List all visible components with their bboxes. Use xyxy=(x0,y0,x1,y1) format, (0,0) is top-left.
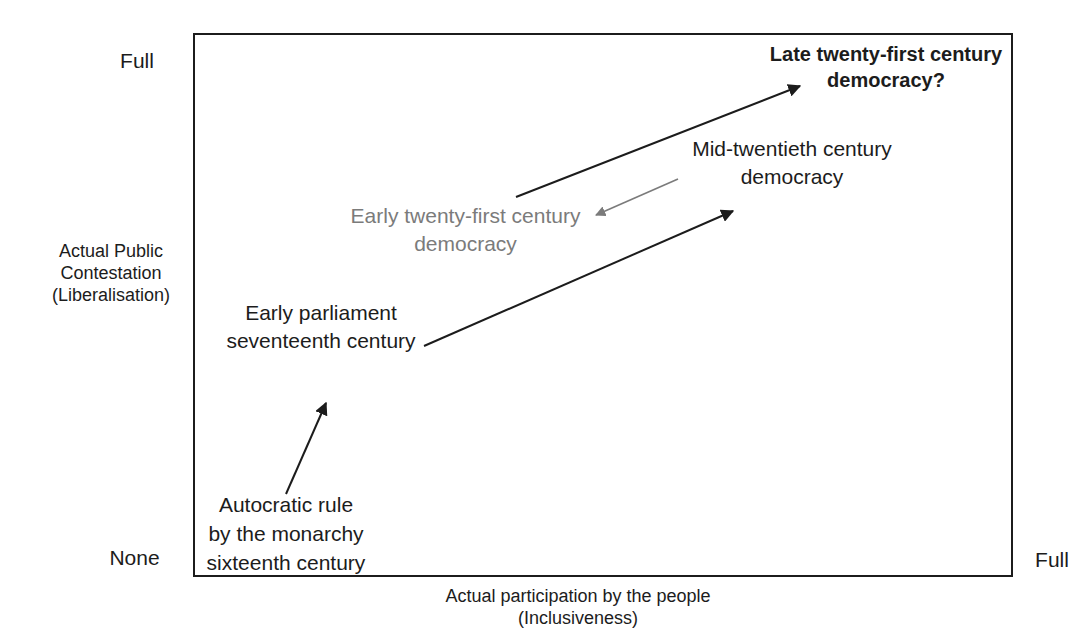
x-axis-title-line-2: (Inclusiveness) xyxy=(378,607,778,629)
stage-label-line: democracy xyxy=(667,163,917,191)
democratization-diagram: Full None Full Actual Public Contestatio… xyxy=(0,0,1091,639)
y-axis-bottom-label: None xyxy=(97,546,172,570)
stage-label-line: democracy xyxy=(333,230,598,258)
stage-label-line: by the monarchy xyxy=(196,519,376,548)
stage-label-autocratic-rule: Autocratic rule by the monarchy sixteent… xyxy=(196,490,376,577)
stage-label-late-21st-century: Late twenty-first century democracy? xyxy=(741,41,1031,93)
x-axis-right-label: Full xyxy=(1022,548,1082,572)
stage-label-line: democracy? xyxy=(741,67,1031,93)
x-axis-title-line-1: Actual participation by the people xyxy=(378,585,778,607)
stage-label-line: seventeenth century xyxy=(221,327,421,355)
stage-label-line: Mid-twentieth century xyxy=(667,135,917,163)
stage-label-line: sixteenth century xyxy=(196,548,376,577)
stage-label-mid-20th-century: Mid-twentieth century democracy xyxy=(667,135,917,191)
y-axis-title-line-2: Contestation xyxy=(31,262,191,284)
stage-label-early-21st-century: Early twenty-first century democracy xyxy=(333,202,598,258)
x-axis-title: Actual participation by the people (Incl… xyxy=(378,585,778,629)
stage-label-line: Late twenty-first century xyxy=(741,41,1031,67)
stage-label-early-parliament: Early parliament seventeenth century xyxy=(221,299,421,355)
y-axis-title-line-1: Actual Public xyxy=(31,240,191,262)
y-axis-title-line-3: (Liberalisation) xyxy=(31,284,191,306)
stage-label-line: Early twenty-first century xyxy=(333,202,598,230)
stage-label-line: Autocratic rule xyxy=(196,490,376,519)
y-axis-top-label: Full xyxy=(102,49,172,73)
y-axis-title: Actual Public Contestation (Liberalisati… xyxy=(31,240,191,306)
stage-label-line: Early parliament xyxy=(221,299,421,327)
